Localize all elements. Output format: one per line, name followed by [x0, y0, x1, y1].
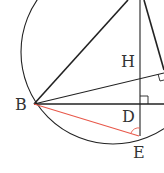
- right-angle-mark-ac: [158, 74, 164, 81]
- segment-ab: [34, 0, 128, 104]
- label-d: D: [122, 109, 135, 125]
- label-h: H: [121, 54, 135, 70]
- angle-arc-e: [131, 128, 140, 133]
- right-angle-mark-d: [140, 96, 148, 104]
- label-b: B: [15, 97, 27, 113]
- geometry-diagram: B H D E: [0, 0, 164, 173]
- label-e: E: [133, 145, 145, 161]
- segment-ac: [144, 0, 164, 70]
- segment-bh: [34, 73, 164, 104]
